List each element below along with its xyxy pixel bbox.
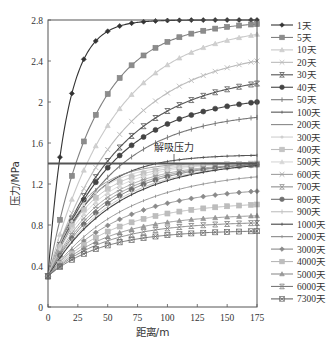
series-line (46, 18, 260, 279)
legend-label: 20天 (297, 58, 317, 68)
legend-label: 700天 (297, 182, 321, 192)
x-tick-label: 100 (160, 313, 175, 323)
y-tick-label: 2.4 (31, 57, 43, 67)
x-tick-label: 25 (73, 313, 83, 323)
legend-item: 6000天 (271, 282, 326, 292)
legend-item: 2000天 (271, 232, 326, 242)
x-tick-label: 150 (220, 313, 235, 323)
legend-item: 800天 (271, 195, 321, 205)
legend-item: 500天 (271, 157, 321, 167)
y-tick-label: 0.8 (31, 221, 43, 231)
x-axis-title: 距离/m (136, 326, 170, 338)
legend-label: 5000天 (297, 270, 326, 280)
legend-label: 1天 (297, 21, 312, 31)
legend-item: 30天 (271, 70, 317, 80)
axes: 025507510012515017500.40.81.21.622.42.8距… (9, 16, 264, 339)
series-line (46, 22, 260, 279)
legend-item: 600天 (271, 170, 321, 180)
x-tick-label: 0 (46, 313, 51, 323)
x-tick-label: 175 (250, 313, 265, 323)
legend-label: 600天 (297, 170, 321, 180)
legend-label: 10天 (297, 45, 317, 55)
legend-item: 100天 (271, 108, 321, 118)
legend-item: 1000天 (271, 220, 326, 230)
y-tick-label: 0 (38, 303, 43, 313)
x-tick-label: 125 (190, 313, 205, 323)
legend-label: 900天 (297, 207, 321, 217)
y-tick-label: 2.8 (31, 16, 43, 26)
legend-label: 2000天 (297, 232, 326, 242)
legend-label: 6000天 (297, 282, 326, 292)
legend-item: 900天 (271, 207, 321, 217)
legend-item: 200天 (271, 120, 321, 130)
legend-label: 300天 (297, 133, 321, 143)
legend-label: 4000天 (297, 257, 326, 267)
legend-item: 4000天 (271, 257, 326, 267)
legend-label: 3000天 (297, 245, 326, 255)
plot-curves (46, 18, 260, 279)
legend-item: 700天 (271, 182, 321, 192)
legend-item: 50天 (271, 95, 317, 105)
legend-item: 40天 (271, 83, 317, 93)
y-tick-label: 2 (38, 98, 43, 108)
legend-label: 500天 (297, 157, 321, 167)
legend-item: 10天 (271, 45, 317, 55)
legend-label: 800天 (297, 195, 321, 205)
x-tick-label: 50 (103, 313, 113, 323)
annotation-label: 解吸压力 (154, 141, 194, 153)
legend-item: 3000天 (271, 245, 326, 255)
legend-label: 50天 (297, 95, 317, 105)
y-tick-label: 1.6 (31, 139, 43, 149)
legend-label: 100天 (297, 108, 321, 118)
legend: 1天5天10天20天30天40天50天100天200天300天400天500天6… (271, 21, 326, 305)
legend-label: 1000天 (297, 220, 326, 230)
legend-item: 1天 (271, 21, 312, 31)
y-axis-title: 压力/MPa (9, 161, 21, 206)
legend-label: 30天 (297, 70, 317, 80)
legend-label: 400天 (297, 145, 321, 155)
x-tick-label: 75 (133, 313, 143, 323)
legend-item: 5000天 (271, 270, 326, 280)
legend-label: 7300天 (297, 294, 326, 304)
legend-label: 40天 (297, 83, 317, 93)
legend-item: 400天 (271, 145, 321, 155)
legend-item: 5天 (271, 33, 312, 43)
legend-label: 200天 (297, 120, 321, 130)
legend-label: 5天 (297, 33, 312, 43)
legend-item: 7300天 (271, 294, 326, 304)
pressure-distance-chart: 025507510012515017500.40.81.21.622.42.8距… (0, 0, 334, 353)
y-tick-label: 0.4 (31, 262, 43, 272)
legend-item: 20天 (271, 58, 317, 68)
y-tick-label: 1.2 (31, 180, 43, 190)
legend-item: 300天 (271, 133, 321, 143)
